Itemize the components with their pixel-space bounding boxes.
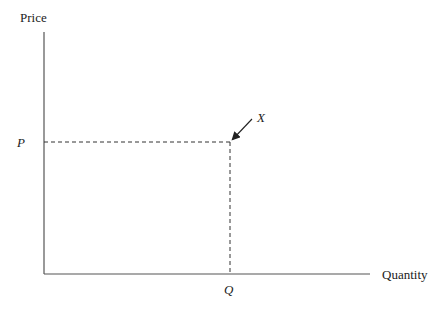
diagram-canvas — [0, 0, 447, 311]
price-label: P — [17, 136, 25, 149]
pointer-arrow — [233, 119, 252, 139]
point-label: X — [257, 111, 265, 124]
quantity-label: Q — [224, 283, 233, 296]
x-axis-label: Quantity — [382, 268, 428, 281]
y-axis-label: Price — [20, 11, 47, 24]
